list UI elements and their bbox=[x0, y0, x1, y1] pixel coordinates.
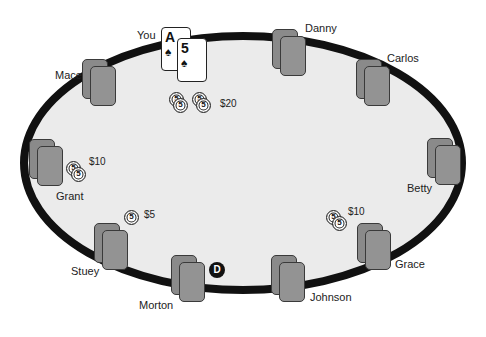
bet-amount-grant: $10 bbox=[89, 156, 106, 167]
chip: 5 bbox=[173, 98, 188, 113]
player-name: Grant bbox=[56, 190, 84, 202]
card-back bbox=[280, 36, 306, 76]
seat-grace[interactable] bbox=[357, 223, 397, 275]
chip: 5 bbox=[124, 210, 139, 225]
card-back bbox=[435, 145, 461, 185]
seat-betty[interactable] bbox=[427, 138, 467, 190]
card-back bbox=[37, 146, 63, 186]
player-name: Betty bbox=[407, 182, 432, 194]
spade-icon: ♠ bbox=[181, 56, 187, 70]
seat-johnson[interactable] bbox=[271, 255, 311, 307]
bet-amount-you: $20 bbox=[220, 98, 237, 109]
seat-mace[interactable] bbox=[82, 59, 122, 111]
card-back bbox=[364, 66, 390, 106]
card-back bbox=[90, 66, 116, 106]
card-back bbox=[279, 262, 305, 302]
player-name: Morton bbox=[139, 299, 173, 311]
spade-icon: ♠ bbox=[165, 45, 171, 59]
player-name: Stuey bbox=[71, 265, 99, 277]
card-back bbox=[102, 230, 128, 270]
hole-card-2: 5 ♠ bbox=[177, 38, 207, 82]
player-name-you: You bbox=[137, 29, 156, 41]
chip: 5 bbox=[332, 216, 347, 231]
player-name: Grace bbox=[395, 258, 425, 270]
card-rank: 5 bbox=[181, 40, 189, 56]
player-name: Carlos bbox=[387, 52, 419, 64]
player-name: Danny bbox=[305, 22, 337, 34]
seat-carlos[interactable] bbox=[356, 59, 396, 111]
dealer-button: D bbox=[209, 262, 225, 278]
card-back bbox=[365, 230, 391, 270]
seat-danny[interactable] bbox=[272, 29, 312, 81]
seat-stuey[interactable] bbox=[94, 223, 134, 275]
seat-grant[interactable] bbox=[29, 139, 69, 191]
bet-amount-stuey: $5 bbox=[144, 209, 155, 220]
card-rank: A bbox=[165, 29, 175, 45]
bet-amount-grace: $10 bbox=[348, 206, 365, 217]
player-name: Johnson bbox=[310, 291, 352, 303]
chip: 5 bbox=[196, 98, 211, 113]
player-name: Mace bbox=[55, 69, 82, 81]
chip: 5 bbox=[71, 167, 86, 182]
seat-morton[interactable] bbox=[171, 255, 211, 307]
card-back bbox=[179, 262, 205, 302]
